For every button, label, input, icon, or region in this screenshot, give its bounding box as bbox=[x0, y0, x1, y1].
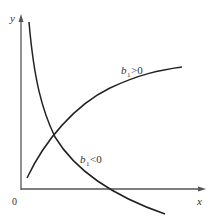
y-axis-arrow-icon bbox=[19, 14, 24, 22]
curve-decreasing bbox=[29, 22, 165, 214]
curve-increasing bbox=[27, 67, 182, 178]
svg-text:<0: <0 bbox=[90, 153, 102, 165]
label-decreasing: b 1 <0 bbox=[80, 153, 102, 168]
diagram: y x 0 b 1 >0 b 1 <0 bbox=[0, 0, 213, 218]
y-axis-label: y bbox=[9, 12, 15, 24]
svg-text:>0: >0 bbox=[131, 64, 143, 76]
x-axis-label: x bbox=[196, 195, 202, 207]
x-axis-arrow-icon bbox=[198, 187, 206, 192]
origin-label: 0 bbox=[12, 196, 17, 207]
